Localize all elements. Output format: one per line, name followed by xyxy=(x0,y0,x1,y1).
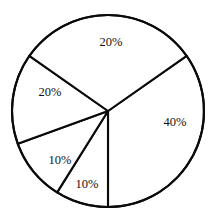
pie-slice-label: 10% xyxy=(75,177,98,192)
pie-slice-label: 20% xyxy=(99,35,122,50)
pie-slice-label: 20% xyxy=(38,85,61,100)
pie-chart-figure: 40%10%10%20%20% xyxy=(0,0,217,222)
pie-slice-label: 40% xyxy=(163,115,186,130)
pie-slice-label: 10% xyxy=(48,153,71,168)
pie-chart-svg xyxy=(0,0,217,222)
